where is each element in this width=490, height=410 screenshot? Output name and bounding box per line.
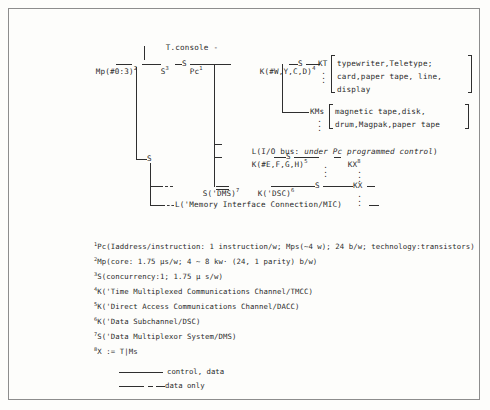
kms-item-0: magnetic tape,disk, <box>335 108 426 116</box>
link-sdms-to-kdsc <box>216 186 229 187</box>
node-s-after-pc: S <box>182 60 187 68</box>
link-kmain-to-s2 <box>289 64 298 65</box>
kx-low-vertical-dots-below: ... <box>356 193 363 207</box>
link-to-lmic-left <box>150 205 165 206</box>
kt-item-1: card,paper tape, line, <box>337 73 442 81</box>
kx-low-vertical-dots-above: ... <box>356 169 363 183</box>
kx-mid-vertical-dots: ... <box>322 164 329 178</box>
legend-label-control-data: control, data <box>167 367 224 376</box>
link-to-kt <box>309 64 318 65</box>
left-trunk-down-to-mic <box>150 186 151 205</box>
mid-trunk-to-dms-row <box>214 174 215 187</box>
diagram-page: Mp(#0:3)2 S3 T.console - Pc1 S K(#W,Y,C,… <box>0 0 490 410</box>
kt-bracket-right <box>468 55 472 93</box>
link-kdsc-to-slow <box>271 186 315 187</box>
link-to-l-io-bus <box>214 144 222 145</box>
link-dashed-to-sdms <box>165 186 173 187</box>
legend-dashed-line-a <box>119 386 144 387</box>
kt-bracket-left <box>331 55 335 93</box>
link-sdms-to-kdsc-2 <box>216 189 229 190</box>
link-s-to-kmain <box>190 64 231 65</box>
legend-dashed-line-b <box>148 386 153 387</box>
link-lmic-tail <box>369 205 379 206</box>
link-to-k-fegh <box>214 157 222 158</box>
node-s-mid: S <box>286 153 291 161</box>
link-kxlow-tail <box>367 186 375 187</box>
right-trunk-to-kms <box>282 112 309 113</box>
kms-item-1: drum,Magpak,paper tape <box>335 121 440 129</box>
node-s-low: S <box>315 182 320 190</box>
kms-bracket-right <box>465 104 469 129</box>
left-trunk-down-to-dms <box>150 163 151 186</box>
link-slow-to-kxlow <box>323 186 353 187</box>
kt-vertical-dots: ... <box>320 70 327 84</box>
legend-label-data-only: data only <box>165 381 205 390</box>
link-console-to-pc <box>144 46 145 60</box>
link-dashed-to-lmic <box>167 205 174 206</box>
diagram-frame: Mp(#0:3)2 S3 T.console - Pc1 S K(#W,Y,C,… <box>8 8 480 400</box>
node-l-mic: L('Memory Interface Connection/MIC) <box>175 201 342 209</box>
left-trunk-to-slow <box>136 159 147 160</box>
kt-item-2: display <box>337 86 370 94</box>
link-kxmid-tail <box>334 157 341 158</box>
legend-dashed-line-c <box>156 386 165 387</box>
link-s0-to-pc <box>142 64 161 65</box>
node-t-console: T.console - <box>137 36 218 59</box>
right-trunk-vertical <box>282 64 283 112</box>
link-kfegh-to-smid <box>274 157 286 158</box>
link-to-sdms-left <box>150 186 163 187</box>
kt-item-0: typewriter,Teletype; <box>337 60 432 68</box>
link-smid-to-kxmid <box>294 157 319 158</box>
legend-solid-line <box>119 372 163 373</box>
footnote-8: 8X := T|Ms <box>67 338 138 365</box>
kms-bracket-left <box>329 104 333 129</box>
link-pc-to-s <box>175 64 182 65</box>
left-trunk-vertical <box>136 67 137 159</box>
kms-vertical-dots: ... <box>316 118 323 132</box>
footnote-8-text: X := T|Ms <box>97 347 137 356</box>
node-s-branch-low: S <box>147 155 152 163</box>
node-s-after-k: S <box>298 60 303 68</box>
link-mp-to-s0 <box>116 64 132 65</box>
